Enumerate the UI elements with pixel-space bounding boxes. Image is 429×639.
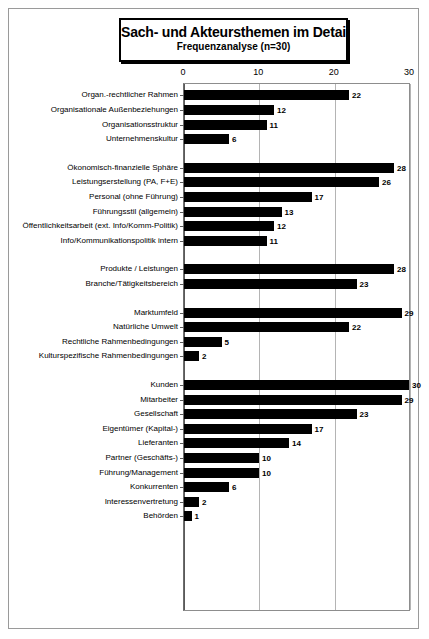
category-label: Kulturspezifische Rahmenbedingungen <box>39 351 178 360</box>
bars-layer: 2212116282617131211282329225230292317141… <box>184 84 410 610</box>
x-tick-label: 0 <box>180 67 185 77</box>
category-label: Lieferanten <box>138 438 178 447</box>
category-label: Organ.-rechtlicher Rahmen <box>82 90 178 99</box>
bar <box>184 134 229 144</box>
bar <box>184 90 349 100</box>
bar-value-label: 29 <box>405 396 414 405</box>
bar-value-label: 17 <box>315 193 324 202</box>
category-label: Behörden <box>143 511 178 520</box>
category-label: Natürliche Umwelt <box>113 322 178 331</box>
category-label: Eigentümer (Kapital-) <box>102 424 178 433</box>
category-label: Personal (ohne Führung) <box>89 192 178 201</box>
bar <box>184 105 274 115</box>
bar <box>184 322 349 332</box>
bar-value-label: 17 <box>315 425 324 434</box>
bar <box>184 279 357 289</box>
bar <box>184 424 312 434</box>
bar <box>184 468 259 478</box>
bar-value-label: 22 <box>352 323 361 332</box>
bar-value-label: 29 <box>405 309 414 318</box>
bar <box>184 236 267 246</box>
category-label: Produkte / Leistungen <box>100 264 178 273</box>
bar-value-label: 11 <box>270 237 278 246</box>
title-box: Sach- und Akteursthemen im Detail Freque… <box>119 18 348 62</box>
x-tick-label: 30 <box>404 67 414 77</box>
bar-value-label: 6 <box>232 135 236 144</box>
bar <box>184 482 229 492</box>
bar <box>184 163 394 173</box>
category-label: Gesellschaft <box>134 409 178 418</box>
bar <box>184 351 199 361</box>
category-label: Rechtliche Rahmenbedingungen <box>62 337 178 346</box>
x-tick-label: 10 <box>253 67 263 77</box>
bar-value-label: 12 <box>277 222 286 231</box>
chart-frame: Sach- und Akteursthemen im Detail Freque… <box>8 8 419 629</box>
x-tick-label: 20 <box>329 67 339 77</box>
bar-value-label: 10 <box>262 454 271 463</box>
category-label: Partner (Geschäfts-) <box>106 453 178 462</box>
bar <box>184 177 379 187</box>
bar-value-label: 23 <box>360 410 369 419</box>
bar <box>184 207 282 217</box>
bar-value-label: 23 <box>360 280 369 289</box>
bar-value-label: 14 <box>292 439 301 448</box>
bar-value-label: 26 <box>382 178 391 187</box>
category-label: Führung/Management <box>99 468 178 477</box>
bar <box>184 264 394 274</box>
category-label: Interessenvertretung <box>105 497 178 506</box>
category-label: Info/Kommunikationspolitik intern <box>61 236 178 245</box>
gridline <box>410 84 411 610</box>
bar-value-label: 5 <box>225 338 229 347</box>
bar-value-label: 6 <box>232 483 236 492</box>
category-label: Organisationsstruktur <box>102 120 178 129</box>
bar <box>184 395 402 405</box>
category-labels: Organ.-rechtlicher RahmenOrganisationale… <box>9 83 181 611</box>
category-label: Öffentlichkeitsarbeit (ext. Info/Komm-Po… <box>23 221 178 230</box>
category-label: Organisationale Außenbeziehungen <box>51 105 178 114</box>
bar-value-label: 2 <box>202 352 206 361</box>
bar <box>184 120 267 130</box>
category-label: Ökonomisch-finanzielle Sphäre <box>67 163 178 172</box>
category-label: Mitarbeiter <box>140 395 178 404</box>
bar-value-label: 2 <box>202 498 206 507</box>
bar-value-label: 28 <box>397 164 406 173</box>
bar <box>184 380 409 390</box>
category-label: Kunden <box>150 380 178 389</box>
bar <box>184 192 312 202</box>
x-axis-tick-labels: 0102030 <box>9 67 420 83</box>
bar-value-label: 10 <box>262 469 271 478</box>
bar <box>184 221 274 231</box>
category-label: Leistungserstellung (PA, F+E) <box>72 177 178 186</box>
category-label: Marktumfeld <box>134 308 178 317</box>
category-label: Unternehmenskultur <box>106 134 178 143</box>
bar-value-label: 28 <box>397 265 406 274</box>
category-label: Konkurrenten <box>130 482 178 491</box>
bar <box>184 308 402 318</box>
bar-chart: 0102030 Organ.-rechtlicher RahmenOrganis… <box>9 67 420 627</box>
category-label: Führungsstil (allgemein) <box>93 207 178 216</box>
page-title: Sach- und Akteursthemen im Detail <box>121 24 346 40</box>
page-subtitle: Frequenzanalyse (n=30) <box>121 40 346 53</box>
bar <box>184 409 357 419</box>
bar-value-label: 30 <box>412 381 421 390</box>
bar <box>184 511 192 521</box>
bar-value-label: 22 <box>352 91 361 100</box>
bar <box>184 497 199 507</box>
bar-value-label: 11 <box>270 121 278 130</box>
bar-value-label: 13 <box>285 208 294 217</box>
bar-value-label: 1 <box>195 512 199 521</box>
category-label: Branche/Tätigkeitsbereich <box>86 279 179 288</box>
bar-value-label: 12 <box>277 106 286 115</box>
bar <box>184 337 222 347</box>
bar <box>184 453 259 463</box>
bar <box>184 438 289 448</box>
